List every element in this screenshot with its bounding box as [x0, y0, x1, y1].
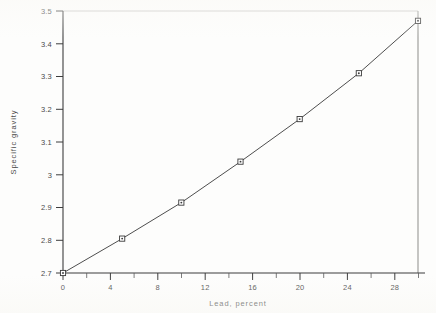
- x-tick-label: 0: [61, 283, 65, 292]
- y-axis-ticks: [56, 11, 63, 273]
- y-tick-label: 3.4: [41, 40, 52, 49]
- x-tick-label: 28: [390, 283, 399, 292]
- y-tick-label: 3.3: [41, 72, 52, 81]
- data-point-center-dot: [299, 118, 301, 120]
- y-axis-tick-labels: 3.5 3.4 3.3 3.2 3.1 3 2.9 2.8 2.7: [41, 7, 52, 278]
- line-chart: 3.5 3.4 3.3 3.2 3.1 3 2.9 2.8 2.7: [0, 0, 436, 313]
- x-tick-label: 12: [201, 283, 210, 292]
- data-point-center-dot: [180, 202, 182, 204]
- y-tick-label: 2.9: [41, 203, 52, 212]
- chart-figure: 3.5 3.4 3.3 3.2 3.1 3 2.9 2.8 2.7: [0, 0, 436, 313]
- y-axis-title: Specific gravity: [9, 110, 18, 175]
- data-point-center-dot: [417, 20, 419, 22]
- x-axis-tick-labels: 0 4 8 12 16 20 24 28: [61, 283, 399, 292]
- y-tick-label: 3.1: [41, 138, 52, 147]
- data-point-center-dot: [358, 72, 360, 74]
- y-tick-label: 2.7: [41, 269, 52, 278]
- data-point-center-dot: [62, 272, 64, 274]
- data-point-center-dot: [121, 238, 123, 240]
- data-point-center-dot: [240, 161, 242, 163]
- x-axis-title: Lead, percent: [209, 299, 267, 308]
- y-tick-label: 3: [48, 171, 52, 180]
- y-tick-label: 3.2: [41, 105, 52, 114]
- x-tick-label: 8: [156, 283, 160, 292]
- data-series-line: [63, 21, 418, 273]
- y-tick-label: 2.8: [41, 236, 52, 245]
- data-point-markers: [60, 18, 420, 275]
- x-tick-label: 24: [343, 283, 352, 292]
- x-tick-label: 4: [108, 283, 112, 292]
- y-tick-label: 3.5: [41, 7, 52, 16]
- x-tick-label: 20: [296, 283, 305, 292]
- x-tick-label: 16: [248, 283, 257, 292]
